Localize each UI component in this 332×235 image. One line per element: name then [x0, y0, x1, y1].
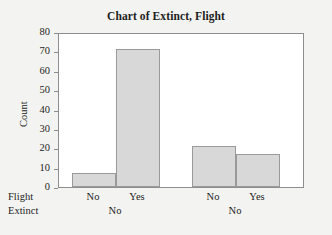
x-axis-level-label: No	[207, 191, 220, 202]
chart-figure: Chart of Extinct, Flight Count 807060504…	[0, 0, 332, 235]
y-axis-ticks: 80706050403020100	[0, 33, 58, 189]
bar	[236, 154, 280, 187]
x-axis: Flight Extinct NoYesNoYes NoNo	[0, 189, 332, 235]
x-axis-level-label: No	[87, 191, 100, 202]
x-axis-row-label-flight: Flight	[8, 191, 33, 202]
y-tick-label: 10	[40, 162, 51, 173]
y-tick-label: 20	[40, 142, 51, 153]
x-axis-group-label: No	[109, 205, 122, 216]
y-tick-label: 70	[40, 45, 51, 56]
bar	[192, 146, 236, 187]
x-axis-row-label-extinct: Extinct	[8, 205, 38, 216]
plot-area	[58, 33, 304, 188]
x-axis-group-label: No	[229, 205, 242, 216]
x-axis-level-label: Yes	[129, 191, 144, 202]
y-tick-label: 80	[40, 26, 51, 37]
bar	[116, 49, 160, 187]
y-tick-label: 40	[40, 104, 51, 115]
y-tick-label: 30	[40, 123, 51, 134]
y-tick-label: 60	[40, 65, 51, 76]
y-tick-label: 50	[40, 84, 51, 95]
bar	[72, 173, 116, 187]
chart-title: Chart of Extinct, Flight	[0, 10, 332, 22]
x-axis-level-label: Yes	[249, 191, 264, 202]
